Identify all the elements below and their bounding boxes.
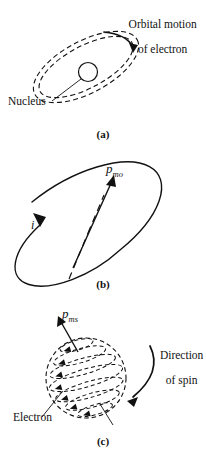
nucleus-label: Nucleus xyxy=(8,95,46,108)
spin-line1: Direction xyxy=(160,349,203,361)
current-symbol-i: i xyxy=(31,218,34,233)
electron-label: Electron xyxy=(13,411,52,424)
pms-symbol: pms xyxy=(62,306,78,324)
moment-vector-pmo xyxy=(73,175,116,268)
pms-sub: ms xyxy=(69,314,78,324)
orbital-motion-line1: Orbital motion xyxy=(129,18,197,30)
spin-line2: of spin xyxy=(166,374,198,386)
panel-c-caption: (c) xyxy=(0,435,206,447)
figure-electron-magnetic-moments: Orbital motion of electron Nucleus (a) xyxy=(0,0,206,460)
panel-a-caption: (a) xyxy=(0,128,206,140)
spin-latitude-bands xyxy=(39,330,133,425)
electron-sphere-outline xyxy=(46,338,126,418)
current-direction-arrow xyxy=(33,213,46,227)
pmo-symbol: pmo xyxy=(106,161,123,179)
current-loop-ellipse xyxy=(15,162,162,286)
panel-b-caption: (b) xyxy=(0,278,206,290)
direction-of-spin-label: Direction of spin xyxy=(140,336,206,399)
orbital-motion-label: Orbital motion of electron xyxy=(104,5,204,68)
pmo-sub: mo xyxy=(113,169,123,179)
nucleus-leader-line xyxy=(52,79,81,101)
orbital-motion-line2: of electron xyxy=(138,43,188,55)
nucleus-circle xyxy=(79,63,98,82)
